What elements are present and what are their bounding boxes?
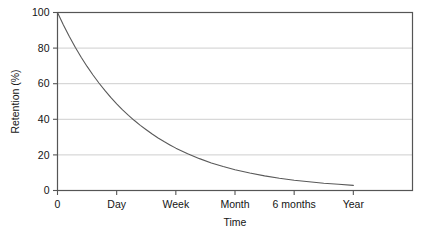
y-tick-label-20: 20 (38, 149, 50, 161)
y-tick-label-40: 40 (38, 113, 50, 125)
x-axis: 0DayWeekMonth6 monthsYear (55, 191, 365, 210)
x-axis-title: Time (224, 216, 247, 228)
forgetting-curve-chart: 0204060801000DayWeekMonth6 monthsYearTim… (0, 0, 428, 243)
y-axis: 020406080100 (32, 6, 58, 196)
y-tick-label-80: 80 (38, 42, 50, 54)
x-tick-label-5: Year (343, 198, 365, 210)
x-tick-label-2: Week (163, 198, 190, 210)
x-tick-label-3: Month (220, 198, 249, 210)
chart-canvas: 0204060801000DayWeekMonth6 monthsYearTim… (0, 0, 428, 243)
plot-background (58, 13, 413, 191)
x-tick-label-0: 0 (55, 198, 61, 210)
x-tick-label-4: 6 months (273, 198, 316, 210)
x-tick-label-1: Day (107, 198, 126, 210)
y-tick-label-60: 60 (38, 77, 50, 89)
y-tick-label-100: 100 (32, 6, 50, 18)
y-axis-title: Retention (%) (9, 69, 21, 133)
y-tick-label-0: 0 (44, 184, 50, 196)
